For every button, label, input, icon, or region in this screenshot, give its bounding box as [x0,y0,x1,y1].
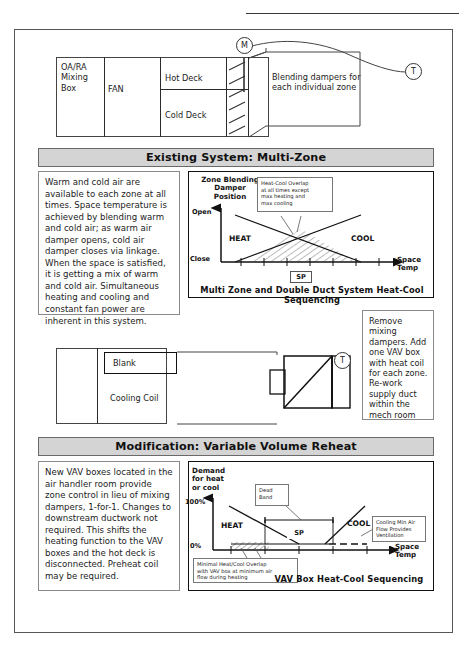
modification-description: New VAV boxes located in the air handler… [38,461,180,591]
chart2-annotation-min-air-flow: Cooling Min Air Flow Provides Ventilatio… [372,516,426,542]
chart2-setpoint-label: SP [287,528,311,539]
section-header-existing-system: Existing System: Multi-Zone [38,148,434,167]
chart-multi-zone-sequencing: Zone Blending Damper Position Open Close… [188,171,434,298]
node-thermostat-icon: T [405,63,422,80]
blending-damper-note: Blending dampers for each individual zon… [272,72,364,93]
chart1-setpoint-box: SP [290,271,312,283]
node-thermostat-mid-icon: T [334,352,351,369]
chart-vav-box-sequencing: Demand for heat or cool 100% 0% Space Te… [188,461,434,591]
section-header-modification: Modification: Variable Volume Reheat [38,437,434,456]
chart1-annotation-overlap: Heat-Cool Overlap at all times except ma… [257,177,333,212]
existing-system-description: Warm and cold air are available to each … [38,171,180,315]
chart2-title: VAV Box Heat-Cool Sequencing [269,574,429,584]
vav-retrofit-note: Remove mixing dampers. Add one VAV box w… [362,310,434,420]
chart2-annotation-dead-band: Dead Band [255,484,289,506]
node-motor-icon: M [236,37,253,54]
